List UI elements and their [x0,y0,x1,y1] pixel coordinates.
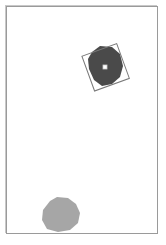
canvas-drawing [0,0,166,245]
selected-shape[interactable] [82,44,129,91]
blob-shape[interactable] [42,197,80,232]
center-handle-icon[interactable] [103,65,107,69]
